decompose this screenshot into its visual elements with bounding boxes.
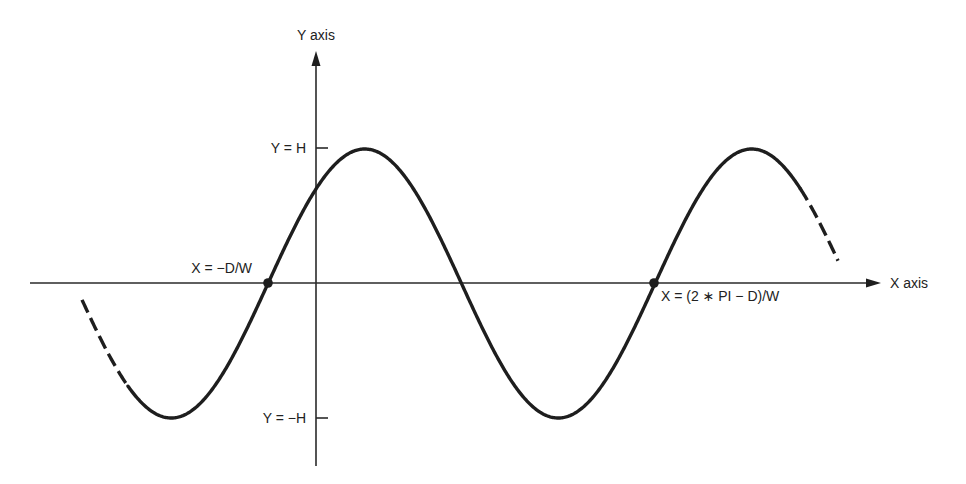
- y-axis-label: Y axis: [297, 27, 335, 43]
- y-max-label: Y = H: [271, 140, 306, 156]
- point-2pi-minus-d-over-w: X = (2 ∗ PI − D)/W: [649, 278, 780, 304]
- point-dot-icon: [263, 278, 273, 288]
- point-label: X = −D/W: [191, 260, 252, 276]
- y-axis: Y axis: [297, 27, 335, 466]
- x-axis-arrow-icon: [866, 279, 881, 288]
- y-tick-max: Y = H: [271, 140, 328, 156]
- point-label: X = (2 ∗ PI − D)/W: [661, 288, 780, 304]
- point-dot-icon: [649, 278, 659, 288]
- sine-wave-diagram: X axis Y axis Y = H Y = −H X = −D/W X = …: [0, 0, 966, 484]
- sine-curve-dashed-left: [82, 300, 128, 386]
- y-tick-min: Y = −H: [263, 410, 328, 426]
- x-axis-label: X axis: [890, 275, 928, 291]
- sine-curve-dashed-right: [800, 188, 838, 260]
- y-axis-arrow-icon: [312, 51, 321, 66]
- x-axis: X axis: [30, 275, 928, 291]
- y-min-label: Y = −H: [263, 410, 306, 426]
